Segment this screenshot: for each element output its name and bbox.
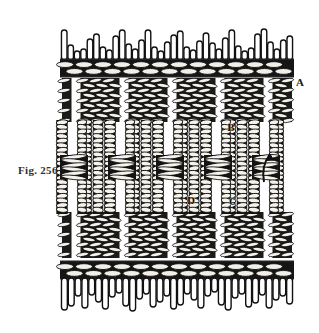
band-cord-link [199,271,216,277]
fringe-strand [109,278,115,297]
fringe-strand [116,278,122,293]
fringe-strand [171,278,177,309]
fringe-strand [139,40,145,60]
label-b: B [227,121,235,133]
fringe-strand [177,278,183,305]
figure-caption: Fig. 256 [18,164,58,176]
band-cord-link [95,62,112,68]
fringe-strand [184,47,190,60]
fringe-strand [100,47,106,60]
band-cord-link [218,69,235,75]
band-cord-link [237,69,254,75]
band-cord-link [152,264,169,270]
fringe-strand [232,278,238,298]
weave-block [124,212,169,258]
vertical-cord [141,119,152,214]
band-cord-link [114,264,131,270]
band-cord-link [266,62,283,68]
fringe-strand [197,41,203,60]
band-cord-link [152,62,169,68]
fringe-strand [198,278,204,308]
band-cord-link [104,271,121,277]
fringe-strand [87,39,93,60]
fringe-strand [205,278,211,296]
band-cord-link [218,271,235,277]
band-cord-link [133,264,150,270]
fringe-strand [191,278,197,300]
fringe-strand [248,48,254,60]
fringe-strand [61,278,67,310]
weave-block [220,212,265,258]
knot [60,154,88,181]
band-cord-link [247,264,264,270]
fringe-strand [239,278,245,294]
band-cord-link [180,271,197,277]
fringe-strand [261,29,267,60]
fringe-strand [61,30,67,60]
band-cord-link [237,271,254,277]
label-c: C [229,195,237,207]
band-cord-link [171,62,188,68]
weave-block [172,78,217,124]
band-cord-link [85,271,102,277]
band-cord-link [104,69,121,75]
fringe-strand [165,42,171,60]
fringe-strand [266,278,272,308]
fringe-strand [119,30,125,60]
band-cord-link [123,69,140,75]
band-cord-link [190,62,207,68]
band-cord-link [57,264,74,270]
lower-cord-band [57,261,295,280]
weave-block [172,212,217,258]
figure-illustration: Fig. 256 A B C D [0,0,319,333]
band-cord-link [161,69,178,75]
band-cord-link [66,69,83,75]
vertical-cord [93,119,104,214]
band-cord-link [142,69,159,75]
band-cord-link [161,271,178,277]
fringe-strand [113,36,119,60]
fringe-strand [210,43,216,60]
fringe-strand [280,278,286,296]
fringe-strand [171,35,177,60]
fringe-strand [246,278,252,307]
knot [156,154,184,181]
fringe-strand [132,49,138,60]
weave-block [220,78,265,124]
fringe-strand [89,278,95,295]
band-cord-link [133,62,150,68]
fringe-strand [223,38,229,60]
fringe-strand [130,278,136,311]
fringe-strand [235,46,241,60]
fringe-strand [68,45,74,60]
fringe-strand [203,33,209,60]
fringe-strand [253,278,259,303]
fringe-strand [68,278,74,306]
fringe-strand [225,278,231,310]
fringe-strand [126,44,132,60]
band-cord-link [57,62,74,68]
band-cord-link [190,264,207,270]
weave-block [76,78,121,124]
fringe-strand [229,30,235,60]
band-cord-link [256,69,273,75]
band-cord-link [95,264,112,270]
fringe-strand [259,278,265,295]
fringe-strand [218,278,224,305]
band-cord-link [199,69,216,75]
band-cord-link [247,62,264,68]
figure-root: Fig. 256 A B C D [0,0,319,333]
fringe-strand [81,49,87,60]
vertical-cord [237,119,248,214]
fringe-strand [143,278,149,294]
upper-cord-band [57,59,295,78]
knot [108,154,136,181]
fringe-strand [212,278,218,292]
label-a: A [296,76,304,88]
fringe-strand [184,278,190,294]
fringe-strand [273,278,279,300]
fringe-strand [287,278,293,304]
fringe-strand [150,278,156,307]
band-cord-link [228,62,245,68]
band-cord-link [66,271,83,277]
